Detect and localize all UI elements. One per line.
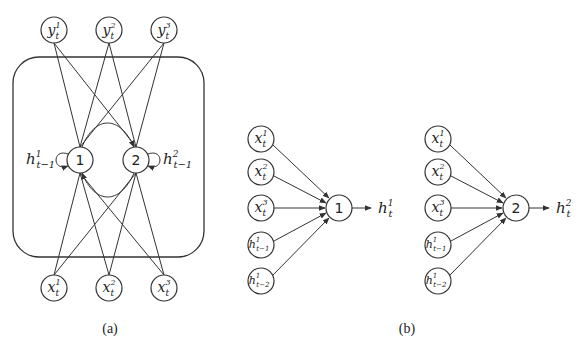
b2-input-x3: x3t (425, 195, 451, 221)
input-node-x2: x2t (96, 275, 122, 301)
b2-input-h-t-1: h1t−1 (425, 232, 451, 258)
b1-input-x1: x1t (248, 126, 274, 152)
recurrent-label-h2: h2t−1 (163, 149, 192, 170)
svg-text:2: 2 (512, 200, 521, 216)
svg-text:2: 2 (132, 152, 141, 168)
b1-input-x3: x3t (248, 195, 274, 221)
svg-text:1: 1 (76, 152, 85, 168)
output-node-y1: y1t (41, 17, 67, 43)
b1-output-label: h1t (378, 198, 393, 219)
hidden-node-1: 1 (67, 147, 93, 173)
b1-unit-node: 1 (326, 195, 352, 221)
panel-b-unit-2: x1t x2t x3t h1t−1 h1t−2 2 h2t (425, 126, 572, 294)
b1-input-h-t-2: h1t−2 (248, 268, 274, 294)
hidden-to-output-edges (54, 43, 164, 147)
b2-input-h-t-2: h1t−2 (425, 268, 451, 294)
input-node-x3: x3t (151, 275, 177, 301)
b1-input-h-t-1: h1t−1 (248, 232, 274, 258)
b2-input-x2: x2t (425, 159, 451, 185)
caption-a: (a) (102, 321, 118, 337)
rnn-diagram: y1t y2t y3t 1 2 h1t−1 h2t−1 x1t x2t (0, 0, 581, 348)
b2-input-x1: x1t (425, 126, 451, 152)
panel-b-unit-1: x1t x2t x3t h1t−1 h1t−2 1 h1t (248, 126, 393, 294)
self-loop-2 (148, 153, 160, 167)
recurrent-label-h1: h1t−1 (26, 149, 55, 170)
b2-unit-node: 2 (503, 195, 529, 221)
input-node-x1: x1t (41, 275, 67, 301)
svg-text:1: 1 (335, 200, 344, 216)
input-to-hidden-edges (54, 173, 164, 275)
panel-a: y1t y2t y3t 1 2 h1t−1 h2t−1 x1t x2t (13, 17, 204, 337)
self-loop-1 (56, 153, 68, 167)
hidden-node-2: 2 (123, 147, 149, 173)
caption-b: (b) (399, 321, 416, 337)
output-node-y3: y3t (151, 17, 177, 43)
b2-output-label: h2t (556, 198, 572, 219)
output-node-y2: y2t (96, 17, 122, 43)
b1-input-x2: x2t (248, 159, 274, 185)
